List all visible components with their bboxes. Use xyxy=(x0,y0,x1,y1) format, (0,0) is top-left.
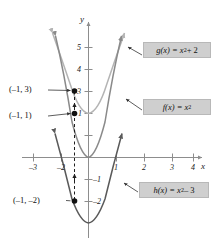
function-label-g-suffix: + 2 xyxy=(187,46,198,55)
plot-canvas xyxy=(0,0,213,244)
function-label-g: g(x) = x2 + 2 xyxy=(143,42,211,58)
y-tick-label-4: 4 xyxy=(77,66,81,74)
x-tick-label-1: 1 xyxy=(114,164,118,172)
function-label-h: h(x) = x2 – 3 xyxy=(139,182,209,198)
box-leader-lines xyxy=(124,47,142,192)
y-tick-label-5: 5 xyxy=(77,44,81,52)
x-tick-label-4: 4 xyxy=(191,164,195,172)
leader-lines xyxy=(48,90,71,201)
point-label-f: (–1, 1) xyxy=(9,111,32,120)
function-label-g-prefix: g(x) = x xyxy=(156,46,183,55)
y-tick-label-3: 3 xyxy=(77,88,81,96)
y-axis-label: y xyxy=(80,15,84,24)
x-tick-label-3: 3 xyxy=(170,164,174,172)
y-tick-label-1: 1 xyxy=(78,110,82,118)
function-label-h-prefix: h(x) = x xyxy=(153,186,180,195)
function-label-f: f(x) = x2 xyxy=(143,99,211,115)
x-tick-label--3: –3 xyxy=(29,164,37,172)
point-label-g: (–1, 3) xyxy=(9,85,32,94)
function-label-h-suffix: – 3 xyxy=(184,186,195,195)
parabola-transformation-figure: –3 –2 1 2 3 4 5 4 3 1 –1 –2 y x (–1, 3) … xyxy=(0,0,213,244)
x-tick-label--2: –2 xyxy=(57,164,65,172)
point-label-h: (–1, –2) xyxy=(13,196,40,205)
point-f-minus1-1 xyxy=(72,111,78,117)
point-h-minus1-neg2 xyxy=(72,198,78,204)
x-tick-label-2: 2 xyxy=(142,164,146,172)
y-tick-label--2: –2 xyxy=(93,198,101,206)
x-axis-label: x xyxy=(201,162,205,171)
function-label-f-prefix: f(x) = x xyxy=(163,103,189,112)
y-tick-label--1: –1 xyxy=(93,176,101,184)
